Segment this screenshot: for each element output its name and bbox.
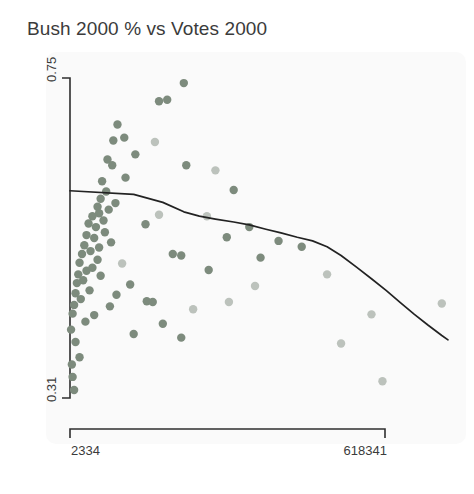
x-axis-max-label: 618341: [344, 443, 387, 458]
scatter-point: [68, 360, 76, 368]
y-axis-max-label: 0.75: [44, 57, 59, 82]
y-axis-min-label: 0.31: [44, 377, 59, 402]
scatter-point: [367, 310, 375, 318]
scatter-point: [106, 302, 114, 310]
scatter-point: [225, 298, 233, 306]
scatter-point: [177, 251, 185, 259]
scatter-point: [101, 228, 109, 236]
scatter-point: [84, 219, 92, 227]
scatter-point: [71, 338, 79, 346]
scatter-point: [102, 187, 110, 195]
scatter-point: [211, 166, 219, 174]
scatter-point: [378, 377, 386, 385]
scatter-point: [131, 150, 139, 158]
trend-line: [70, 191, 448, 340]
axes: [62, 78, 385, 438]
x-axis-line: [70, 429, 385, 438]
x-axis-min-label: 2334: [71, 443, 100, 458]
scatter-point: [95, 243, 103, 251]
y-axis-line: [62, 78, 70, 398]
scatter-point: [274, 237, 282, 245]
scatter-point: [93, 256, 101, 264]
scatter-point: [111, 199, 119, 207]
scatter-point: [82, 267, 90, 275]
scatter-point: [85, 286, 93, 294]
scatter-point: [99, 216, 107, 224]
scatter-point: [204, 266, 212, 274]
scatter-point: [70, 301, 78, 309]
scatter-point: [169, 250, 177, 258]
scatter-point: [77, 295, 85, 303]
scatter-point: [96, 195, 104, 203]
scatter-point: [129, 330, 137, 338]
scatter-point: [98, 177, 106, 185]
scatter-point: [107, 238, 115, 246]
scatter-point: [112, 291, 120, 299]
scatter-point: [251, 282, 259, 290]
scatter-point: [323, 270, 331, 278]
scatter-point: [120, 133, 128, 141]
scatter-point: [78, 250, 86, 258]
scatter-point: [88, 212, 96, 220]
scatter-point: [90, 234, 98, 242]
scatter-point: [223, 233, 231, 241]
scatter-point: [118, 259, 126, 267]
scatter-point: [438, 299, 446, 307]
scatter-point: [149, 298, 157, 306]
scatter-point: [90, 311, 98, 319]
scatter-point: [182, 161, 190, 169]
scatter-point: [109, 136, 117, 144]
scatter-point: [73, 279, 81, 287]
scatter-plot: 0.75 0.31 2334 618341: [0, 0, 474, 494]
scatter-point: [81, 317, 89, 325]
scatter-point: [151, 138, 159, 146]
scatter-point: [256, 253, 264, 261]
scatter-point: [86, 247, 94, 255]
scatter-point: [108, 161, 116, 169]
scatter-point: [96, 272, 104, 280]
scatter-point: [180, 79, 188, 87]
scatter-point: [80, 241, 88, 249]
scatter-point: [126, 280, 134, 288]
trend-line-path: [70, 191, 448, 340]
scatter-point: [82, 231, 90, 239]
scatter-point: [155, 97, 163, 105]
scatter-point: [163, 96, 171, 104]
scatter-point: [177, 333, 185, 341]
scatter-point: [75, 259, 83, 267]
scatter-point: [92, 223, 100, 231]
scatter-point: [121, 173, 129, 181]
scatter-point: [141, 220, 149, 228]
scatter-point: [75, 353, 83, 361]
data-points: [67, 79, 446, 394]
scatter-point: [189, 305, 197, 313]
scatter-point: [229, 186, 237, 194]
scatter-point: [67, 325, 75, 333]
scatter-point: [159, 320, 167, 328]
scatter-point: [298, 243, 306, 251]
scatter-point: [155, 211, 163, 219]
scatter-point: [68, 309, 76, 317]
scatter-point: [113, 120, 121, 128]
scatter-point: [70, 386, 78, 394]
scatter-point: [337, 339, 345, 347]
chart-container: Bush 2000 % vs Votes 2000 0.75 0.31 2334…: [0, 0, 474, 494]
scatter-point: [68, 373, 76, 381]
scatter-point: [105, 205, 113, 213]
